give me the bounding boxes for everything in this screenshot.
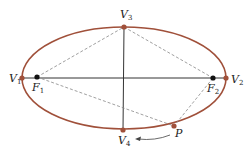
label-v4: V4 [118,134,131,148]
label-f2: F2 [206,82,219,96]
focus-f1-point [34,74,39,79]
focus-f2-point [210,75,215,80]
label-f1: F1 [31,81,44,95]
vertex-v4-point [120,127,125,132]
motion-arrow [138,135,170,140]
minor-axis [123,27,124,130]
label-v1: V1 [9,72,21,86]
dashed-focal-lines [37,27,213,126]
vertex-v2-point [223,75,228,80]
label-p: P [174,127,183,140]
arrow-head-icon [135,137,141,142]
label-v3: V3 [120,8,132,22]
vertex-v3-point [121,24,126,29]
label-v2: V2 [231,73,243,87]
ellipse-diagram: V1 F1 V3 V2 F2 V4 P [0,0,251,153]
